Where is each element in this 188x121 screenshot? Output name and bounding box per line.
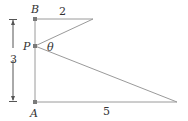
label-b: B: [31, 4, 39, 15]
label-top-length: 2: [59, 6, 66, 17]
label-bottom-length: 5: [103, 106, 110, 117]
arrowhead-up-icon: [11, 20, 15, 25]
label-p: P: [23, 41, 30, 52]
diagram-lines: [0, 0, 188, 121]
label-a: A: [30, 108, 38, 119]
label-theta: θ: [47, 42, 54, 53]
point-p: [33, 44, 37, 48]
point-b: [33, 17, 37, 21]
point-a: [33, 100, 37, 104]
segment-p-right: [35, 46, 177, 102]
arrowhead-down-icon: [11, 96, 15, 101]
segment-p-top: [35, 19, 93, 46]
diagram-canvas: B 2 P θ 3 A 5: [0, 0, 188, 121]
label-height: 3: [10, 54, 17, 65]
